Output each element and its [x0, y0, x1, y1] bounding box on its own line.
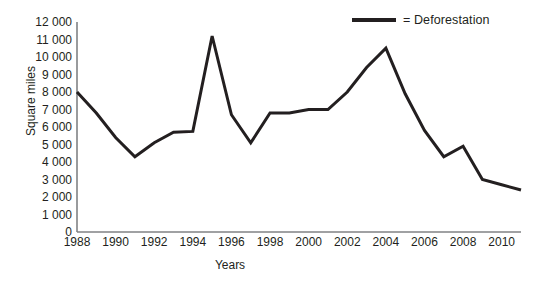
x-axis-tick-label: 2002: [334, 236, 361, 248]
x-axis-tick-label: 2006: [411, 236, 438, 248]
x-axis-tick-label: 1992: [141, 236, 168, 248]
series-line-deforestation: [77, 36, 521, 190]
x-axis-tick-label: 2000: [295, 236, 322, 248]
x-axis-tick-label: 2004: [373, 236, 400, 248]
x-axis-tick-labels: 1988199019921994199619982000200220042006…: [0, 236, 543, 254]
x-axis-tick-label: 1996: [218, 236, 245, 248]
x-axis-tick-label: 1994: [179, 236, 206, 248]
x-axis-tick-label: 2008: [450, 236, 477, 248]
x-axis-tick-label: 2010: [488, 236, 515, 248]
deforestation-line-chart: = Deforestation Square miles 01 0002 000…: [0, 0, 543, 281]
x-axis-tick-label: 1998: [257, 236, 284, 248]
x-axis-title: Years: [0, 258, 460, 272]
x-axis-tick-label: 1990: [102, 236, 129, 248]
x-axis-tick-label: 1988: [64, 236, 91, 248]
